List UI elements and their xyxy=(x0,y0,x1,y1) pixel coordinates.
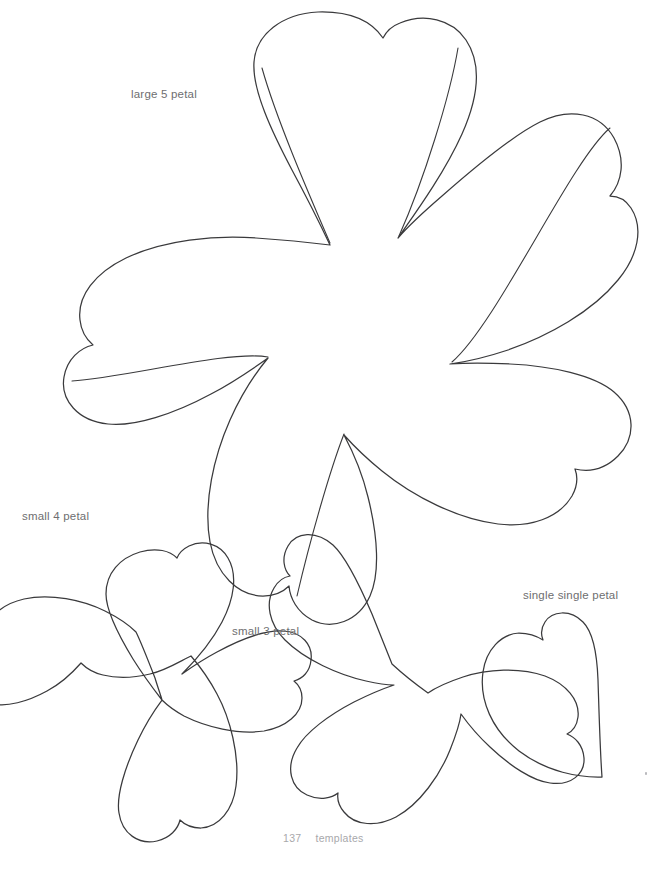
page-number: 137 xyxy=(283,832,301,844)
large-5-petal-outline xyxy=(63,12,637,624)
label-small-3-petal: small 3 petal xyxy=(232,626,299,638)
large-5-petal-template[interactable] xyxy=(63,12,637,624)
template-page: large 5 petal small 4 petal small 3 peta… xyxy=(0,0,663,886)
single-petal-outline xyxy=(482,613,602,777)
label-small-4-petal: small 4 petal xyxy=(22,511,89,523)
label-single-petal: single single petal xyxy=(523,590,618,602)
notch-accent-bottom xyxy=(297,434,344,596)
label-large-5-petal: large 5 petal xyxy=(131,89,197,101)
single-petal-template[interactable] xyxy=(482,613,602,777)
petal-templates-artwork xyxy=(0,0,663,886)
small-4-petal-template[interactable] xyxy=(0,543,311,842)
large-5-petal-notch-accents xyxy=(72,48,610,596)
page-footer: 137templates xyxy=(283,833,364,844)
small-4-petal-outline xyxy=(0,543,311,842)
small-3-petal-outline xyxy=(269,535,584,824)
footer-section-label: templates xyxy=(315,832,363,844)
small-3-petal-template[interactable] xyxy=(269,535,584,824)
notch-accent-top-left xyxy=(262,68,330,243)
notch-accent-right xyxy=(452,128,610,362)
scan-speck-artifact xyxy=(645,772,647,775)
